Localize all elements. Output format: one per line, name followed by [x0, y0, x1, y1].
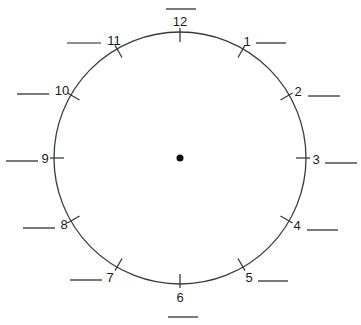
hour-number-6: 6	[176, 290, 183, 305]
clock-face-diagram: 121234567891011	[0, 0, 361, 325]
hour-number-9: 9	[41, 151, 48, 166]
center-dot	[177, 155, 184, 162]
clock-worksheet: 121234567891011	[0, 0, 361, 325]
hour-number-5: 5	[245, 270, 252, 285]
hour-number-11: 11	[107, 33, 121, 48]
hour-number-4: 4	[293, 218, 300, 233]
hour-number-12: 12	[173, 14, 187, 29]
answer-blanks	[6, 9, 357, 317]
hour-number-3: 3	[312, 152, 319, 167]
hour-number-10: 10	[55, 83, 69, 98]
hour-number-7: 7	[106, 270, 113, 285]
hour-number-2: 2	[294, 84, 301, 99]
hour-number-8: 8	[60, 217, 67, 232]
hour-number-1: 1	[243, 34, 250, 49]
